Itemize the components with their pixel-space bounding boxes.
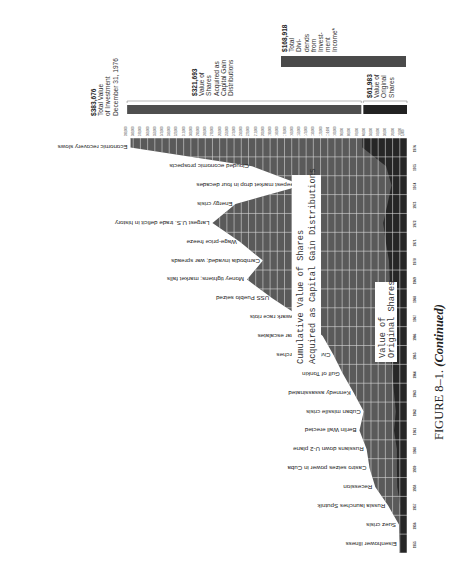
year-tick-label: 1975: [413, 164, 417, 171]
value-tick-label: 100,000: [333, 126, 337, 136]
capital-gains-callout-line: Value of: [198, 72, 205, 96]
event-annotation: Gulf of Tonkin: [302, 371, 340, 378]
value-tick-label: 150,000: [297, 126, 301, 136]
total-value-callout-line: Total Value: [97, 84, 104, 116]
event-annotation: Berlin Wall erected: [304, 427, 356, 434]
value-tick-label: 380,000: [131, 126, 135, 136]
event-annotation: Energy crisis: [197, 201, 232, 208]
value-tick-label: 70,000: [355, 128, 359, 136]
year-tick-label: 1972: [413, 220, 417, 227]
event-annotation: Kennedy assassinated: [288, 390, 351, 397]
value-tick-label: 10,000: [398, 128, 402, 136]
year-tick-label: 1967: [413, 315, 417, 322]
original-shares-bar: [363, 105, 407, 114]
value-tick-label: 40,000: [376, 128, 380, 136]
event-annotation: Recession: [343, 484, 372, 491]
value-tick-label: 330,000: [167, 126, 171, 136]
year-tick-label: 1959: [413, 466, 417, 473]
value-tick-label: 260,000: [218, 126, 222, 136]
event-annotation: Russia launches Sputnik: [317, 503, 386, 510]
capital-gains-callout-line: Distributions: [227, 59, 234, 96]
event-annotation: USS Pueblo seized: [215, 295, 269, 302]
total-value-callout-line: December 31, 1976: [112, 58, 119, 116]
value-tick-label: 250,000: [225, 126, 229, 136]
value-tick-label: 50,000: [369, 128, 373, 136]
event-annotation: Newark race riots: [250, 314, 298, 321]
value-tick-label: 30,000: [383, 128, 387, 136]
year-tick-label: 1955: [413, 541, 417, 548]
dividends-callout-line: Income*: [331, 27, 338, 52]
event-annotation: Wage-price freeze: [186, 239, 237, 246]
value-tick-label: 310,000: [182, 126, 186, 136]
value-tick-label: 130,000: [311, 126, 315, 136]
event-annotation: Eisenhower illness: [346, 541, 397, 548]
value-tick-label: 190,000: [268, 126, 272, 136]
original-area-label: Original Shares: [387, 281, 397, 358]
event-annotation: Suez crisis: [366, 522, 396, 529]
value-tick-label: 340,000: [160, 126, 164, 136]
dividends-callout-line: from: [310, 38, 317, 52]
year-tick-label: 1973: [413, 201, 417, 208]
year-tick-label: 1968: [413, 296, 417, 303]
value-tick-label: 20,000: [391, 128, 395, 136]
year-tick-label: 1964: [413, 371, 417, 378]
dividends-callout-line: ment: [324, 37, 331, 52]
capital-gains-area-label: Acquired as Capital Gain Distributions: [308, 168, 318, 364]
value-tick-label: 220,000: [246, 126, 250, 136]
value-tick-label: 90,000: [340, 128, 344, 136]
value-tick-label: 240,000: [232, 126, 236, 136]
value-tick-label: 5,000: [401, 129, 405, 136]
event-annotation: Largest U.S. trade deficit in history: [114, 220, 209, 227]
value-tick-label: 120,000: [319, 126, 323, 136]
event-annotation: Castro seizes power in Cuba: [287, 465, 367, 472]
year-tick-label: 1957: [413, 503, 417, 510]
value-tick-label: 280,000: [203, 126, 207, 136]
value-tick-label: 80,000: [347, 128, 351, 136]
capital-gains-area-label: Cumulative Value of Shares: [296, 230, 306, 364]
value-tick-label: 140,000: [304, 126, 308, 136]
value-tick-label: 160,000: [290, 126, 294, 136]
event-annotation: Money tightens; market falls: [167, 276, 244, 283]
capital-gains-callout-line: Shares: [205, 74, 212, 96]
value-tick-label: 230,000: [239, 126, 243, 136]
year-tick-label: 1961: [413, 428, 417, 435]
year-tick-label: 1966: [413, 333, 417, 340]
year-tick-label: 1969: [413, 277, 417, 284]
dividends-bar: [281, 56, 406, 67]
event-annotation: Russians down U-2 plane: [293, 446, 364, 453]
year-tick-label: 1958: [413, 484, 417, 491]
year-tick-label: 1965: [413, 352, 417, 359]
value-tick-label: 170,000: [283, 126, 287, 136]
value-tick-label: 370,000: [138, 126, 142, 136]
figure-caption: FIGURE 8–1. (Continued): [432, 304, 446, 440]
event-annotation: Clouded economic prospects: [169, 163, 249, 170]
total-value-callout-line: of Investment: [104, 76, 111, 116]
value-tick-label: 180,000: [275, 126, 279, 136]
value-tick-label: 60,000: [362, 128, 366, 136]
year-tick-label: 1974: [413, 183, 417, 190]
dividends-callout-line: dends: [303, 33, 310, 52]
dividends-callout-line: Divi-: [295, 39, 302, 52]
year-tick-label: 1970: [413, 258, 417, 265]
year-tick-label: 1962: [413, 409, 417, 416]
year-tick-label: 1963: [413, 390, 417, 397]
event-annotation: Steepest market drop in four decades: [196, 182, 299, 189]
event-annotation: Cambodia invaded; war spreads: [171, 258, 260, 265]
event-annotation: Cuban missile crisis: [306, 409, 361, 416]
year-tick-label: 1956: [413, 522, 417, 529]
year-tick-label: 1960: [413, 447, 417, 454]
value-tick-label: 350,000: [153, 126, 157, 136]
value-tick-label: 390,000: [124, 126, 128, 136]
bracket-line: [127, 101, 407, 103]
dividends-callout-line: Total: [288, 38, 295, 52]
value-tick-label: 200,000: [261, 126, 265, 136]
value-tick-label: 270,000: [210, 126, 214, 136]
investment-growth-chart: Eisenhower illnessSuez crisisRussia laun…: [0, 0, 457, 573]
value-tick-label: 300,000: [189, 126, 193, 136]
value-tick-label: 110,000: [326, 126, 330, 136]
dividends-callout-line: Invest-: [317, 32, 324, 52]
value-tick-label: 210,000: [254, 126, 258, 136]
original-shares-callout-line: Shares: [388, 76, 395, 98]
original-shares-callout-line: Value of: [373, 74, 380, 98]
value-tick-label: 290,000: [196, 126, 200, 136]
